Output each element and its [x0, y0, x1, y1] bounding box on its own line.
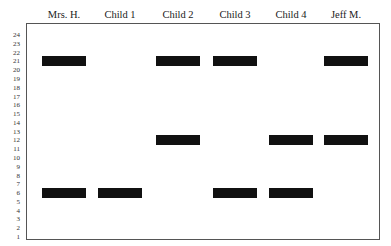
y-tick-label: 1: [4, 233, 20, 241]
y-tick-label: 11: [4, 145, 20, 153]
y-tick-label: 21: [4, 57, 20, 65]
y-tick-label: 3: [4, 215, 20, 223]
y-tick-label: 14: [4, 119, 20, 127]
y-tick-label: 7: [4, 180, 20, 188]
y-tick-label: 17: [4, 93, 20, 101]
lane-label: Child 1: [90, 9, 150, 20]
lane-label: Child 2: [148, 9, 208, 20]
lane-label: Jeff M.: [316, 9, 376, 20]
y-tick-label: 4: [4, 207, 20, 215]
dna-band: [156, 135, 200, 145]
y-tick-label: 15: [4, 110, 20, 118]
y-tick-label: 5: [4, 198, 20, 206]
dna-band: [213, 56, 257, 66]
dna-band: [213, 188, 257, 198]
dna-band: [269, 188, 313, 198]
dna-band: [324, 56, 368, 66]
dna-band: [42, 56, 86, 66]
dna-band: [156, 56, 200, 66]
y-tick-label: 19: [4, 75, 20, 83]
lane-label: Child 4: [261, 9, 321, 20]
dna-band: [98, 188, 142, 198]
y-tick-label: 13: [4, 128, 20, 136]
y-tick-label: 12: [4, 136, 20, 144]
dna-band: [324, 135, 368, 145]
y-tick-label: 24: [4, 31, 20, 39]
y-tick-label: 2: [4, 224, 20, 232]
y-tick-label: 20: [4, 66, 20, 74]
y-tick-label: 18: [4, 84, 20, 92]
y-tick-label: 10: [4, 154, 20, 162]
y-tick-label: 16: [4, 101, 20, 109]
lane-label: Mrs. H.: [34, 9, 94, 20]
dna-band: [269, 135, 313, 145]
dna-band: [42, 188, 86, 198]
y-tick-label: 6: [4, 189, 20, 197]
lane-label: Child 3: [205, 9, 265, 20]
y-tick-label: 8: [4, 172, 20, 180]
y-tick-label: 9: [4, 163, 20, 171]
y-tick-label: 22: [4, 49, 20, 57]
y-tick-label: 23: [4, 40, 20, 48]
